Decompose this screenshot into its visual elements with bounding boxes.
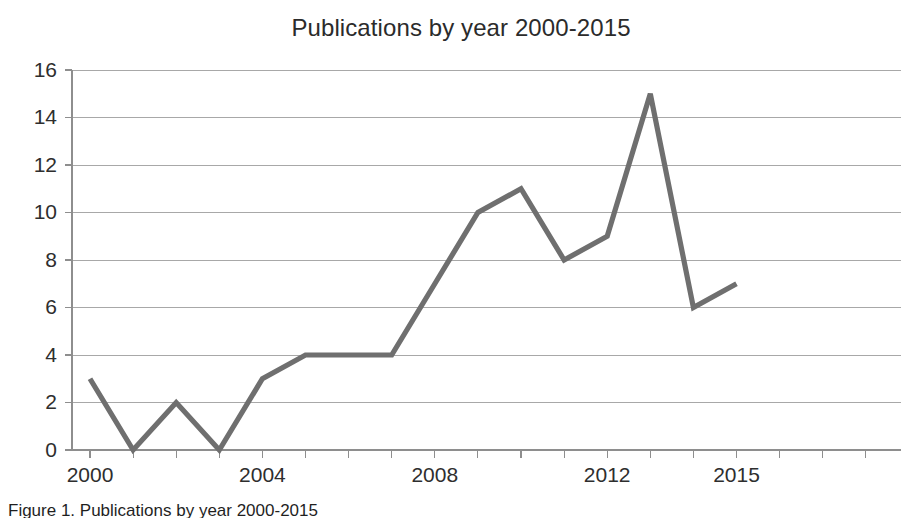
figure-container: Publications by year 2000-2015 024681012…: [0, 0, 922, 518]
series-line-publications: [90, 94, 737, 450]
x-tick-label: 2000: [67, 463, 114, 486]
x-tick-label: 2004: [239, 463, 286, 486]
x-axis-tick-labels: 20002004200820122015: [67, 463, 760, 486]
y-tick-label: 2: [45, 390, 57, 413]
y-tick-label: 6: [45, 295, 57, 318]
y-tick-label: 14: [34, 105, 58, 128]
x-axis-group: [72, 450, 901, 458]
line-chart-svg: 0246810121416 20002004200820122015: [0, 0, 922, 500]
y-tick-label: 0: [45, 438, 57, 461]
y-tick-label: 12: [34, 153, 57, 176]
x-tick-label: 2015: [713, 463, 760, 486]
x-tick-label: 2012: [584, 463, 631, 486]
y-tick-label: 16: [34, 58, 57, 81]
y-axis-group: [65, 70, 72, 450]
y-tick-label: 4: [45, 343, 57, 366]
y-axis-tick-labels: 0246810121416: [34, 58, 58, 461]
plot-area: 0246810121416 20002004200820122015: [0, 0, 922, 500]
x-tick-label: 2008: [411, 463, 458, 486]
y-tick-label: 8: [45, 248, 57, 271]
figure-caption: Figure 1. Publications by year 2000-2015: [8, 500, 708, 518]
data-series-group: [90, 94, 737, 450]
y-tick-label: 10: [34, 200, 57, 223]
gridlines-group: [72, 70, 901, 450]
